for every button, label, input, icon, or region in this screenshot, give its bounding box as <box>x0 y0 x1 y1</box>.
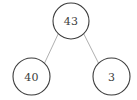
node-label-right-child: 3 <box>108 71 115 84</box>
tree-canvas: 43 40 3 <box>0 0 137 100</box>
edge-root-to-right-child <box>84 34 99 64</box>
node-label-root: 43 <box>64 15 78 28</box>
node-label-left-child: 40 <box>24 71 38 84</box>
tree-node-root[interactable]: 43 <box>53 3 89 39</box>
binary-tree-diagram: 43 40 3 <box>0 0 137 100</box>
tree-node-right-child[interactable]: 3 <box>93 58 130 95</box>
tree-node-left-child[interactable]: 40 <box>13 58 50 95</box>
edge-root-to-left-child <box>45 34 59 63</box>
